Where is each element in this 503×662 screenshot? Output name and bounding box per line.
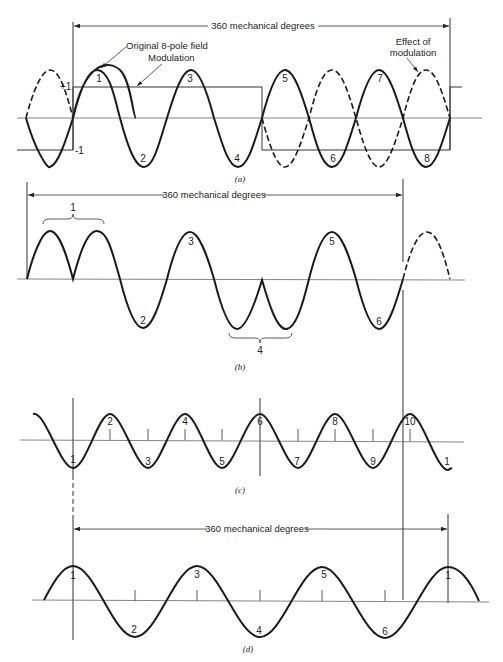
- caption-c: (c): [235, 485, 245, 495]
- pole-label: 7: [377, 73, 383, 84]
- panel-a: 360 mechanical degrees 1 2 3 4 5 6 7 8 +…: [17, 18, 482, 184]
- pole-label: 4: [256, 625, 262, 636]
- pole-label: 7: [294, 456, 300, 467]
- axis: [32, 600, 489, 602]
- caption-a: (a): [235, 174, 246, 184]
- annotation-effect-line1: Effect of: [396, 36, 431, 47]
- leading-dashed-wave: [26, 70, 73, 118]
- pointer-effect: [407, 58, 418, 72]
- panel-d: 360 mechanical degrees 1 2 3 4 5 6 1 (d): [32, 514, 489, 654]
- pole-label: 10: [404, 416, 416, 427]
- pole-label: 6: [382, 626, 388, 637]
- pole-label: 8: [424, 153, 430, 164]
- pole-label: 6: [330, 153, 336, 164]
- caption-d: (d): [243, 644, 254, 654]
- caption-b: (b): [235, 362, 246, 372]
- span-label: 360 mechanical degrees: [162, 189, 266, 200]
- pole-label: 5: [219, 456, 225, 467]
- pole-label: 3: [194, 569, 200, 580]
- pointer-original-field: [101, 47, 126, 68]
- brace-pole-1: [43, 214, 104, 224]
- pole-label: 1: [70, 570, 76, 581]
- pole-label: 3: [187, 73, 193, 84]
- pole-label: 9: [370, 456, 376, 467]
- pole-label: 5: [329, 236, 335, 247]
- minus-one-label: -1: [75, 145, 84, 156]
- pole-label: 3: [188, 236, 194, 247]
- pole-label: 1: [70, 202, 76, 213]
- pole-label: 6: [257, 416, 263, 427]
- pole-label: 1: [445, 570, 451, 581]
- plus-one-label: +1: [60, 81, 72, 92]
- pole-label: 8: [332, 416, 338, 427]
- pole-label: 6: [376, 316, 382, 327]
- pole-label: 4: [182, 416, 188, 427]
- pointer-modulation: [137, 64, 162, 86]
- span-label: 360 mechanical degrees: [211, 20, 315, 31]
- pole-label: 3: [145, 456, 151, 467]
- annotation-original-field: Original 8-pole field: [126, 40, 208, 51]
- pole-label: 2: [140, 315, 146, 326]
- pole-label: 5: [282, 73, 288, 84]
- pole-label: 2: [140, 153, 146, 164]
- continuation-dashed-wave: [403, 232, 450, 279]
- pole-label: 1: [96, 73, 102, 84]
- pole-label: 4: [234, 153, 240, 164]
- pole-label: 2: [131, 624, 137, 635]
- original-field-wave: [26, 65, 450, 167]
- pole-label: 1: [444, 456, 450, 467]
- panel-b: 360 mechanical degrees 1 2 3 4 5 6 (b): [17, 179, 465, 600]
- panel-c: 1 2 3 4 5 6 7 8 9 10 1 (c): [20, 398, 464, 520]
- pole-label: 1: [70, 454, 76, 465]
- pole-label: 4: [257, 345, 263, 356]
- pole-label: 5: [321, 569, 327, 580]
- pole-label: 2: [107, 416, 113, 427]
- pole-amplitude-modulation-figure: 360 mechanical degrees 1 2 3 4 5 6 7 8 +…: [0, 0, 503, 662]
- annotation-modulation: Modulation: [148, 52, 194, 63]
- span-label: 360 mechanical degrees: [205, 523, 309, 534]
- annotation-effect-line2: modulation: [390, 47, 436, 58]
- brace-pole-4: [229, 333, 292, 343]
- axis: [17, 279, 465, 280]
